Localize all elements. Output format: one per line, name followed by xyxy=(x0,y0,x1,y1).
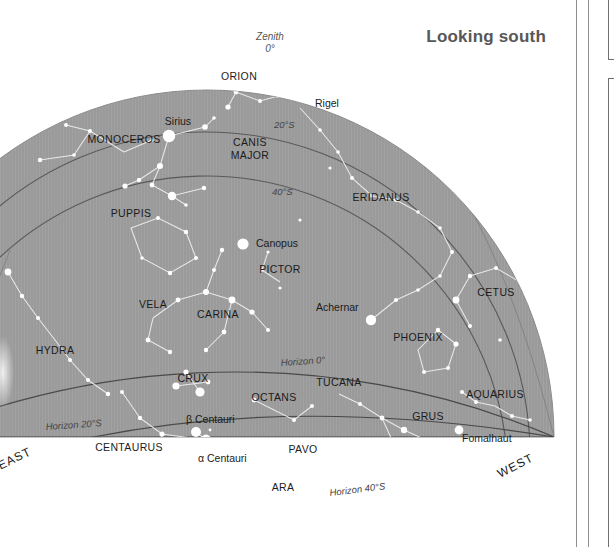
adjacent-panel-top-bottom xyxy=(608,59,614,60)
constellation-label-centaurus: CENTAURUS xyxy=(95,441,163,453)
constellation-label-vela: VELA xyxy=(139,298,167,310)
star-beta-centauri xyxy=(191,427,201,437)
star-chart-page: Looking south xyxy=(0,0,614,547)
constellation-label-puppis: PUPPIS xyxy=(111,207,152,219)
sky-chart: Zenith 0° 20°S 40°S Horizon 0° Horizon 2… xyxy=(0,0,590,547)
star-label-achernar: Achernar xyxy=(316,301,359,313)
constellation-label-tucana: TUCANA xyxy=(316,376,361,388)
star-sirius xyxy=(163,130,175,142)
star-canopus xyxy=(237,238,248,249)
constellation-label-cetus: CETUS xyxy=(477,286,514,298)
declination-20S-label: 20°S xyxy=(273,119,295,130)
constellation-label-crux: CRUX xyxy=(177,372,208,384)
constellation-label-aquarius: AQUARIUS xyxy=(466,388,524,400)
adjacent-panel-top-edge xyxy=(608,0,609,60)
star-label-alpha-centauri: α Centauri xyxy=(198,452,247,464)
constellation-label-pavo: PAVO xyxy=(288,443,317,455)
constellation-label-carina: CARINA xyxy=(197,308,239,320)
star-label-canopus: Canopus xyxy=(256,237,298,249)
star-label-fomalhaut: Fomalhaut xyxy=(462,432,512,444)
constellation-label-canis-major-line2: MAJOR xyxy=(231,149,270,161)
constellation-label-hydra: HYDRA xyxy=(36,344,75,356)
constellation-label-monoceros: MONOCEROS xyxy=(87,133,160,145)
star-label-rigel: Rigel xyxy=(315,97,339,109)
sky-chart-svg: Zenith 0° 20°S 40°S Horizon 0° Horizon 2… xyxy=(0,0,590,547)
constellation-label-canis-major-line1: CANIS xyxy=(233,136,267,148)
zenith-value: 0° xyxy=(265,43,275,54)
constellation-label-grus: GRUS xyxy=(412,410,444,422)
star-label-beta-centauri: β Centauri xyxy=(186,413,235,425)
declination-40S-label: 40°S xyxy=(272,186,293,197)
zenith-label: Zenith xyxy=(255,31,284,42)
direction-west-label: WEST xyxy=(495,451,536,481)
star-achernar xyxy=(366,315,376,325)
constellation-label-orion: ORION xyxy=(221,70,257,82)
constellation-label-eridanus: ERIDANUS xyxy=(352,191,409,203)
star-label-sirius: Sirius xyxy=(165,115,191,127)
star-alpha-centauri xyxy=(201,435,212,446)
horizon-40S-label: Horizon 40°S xyxy=(329,480,387,498)
constellation-label-octans: OCTANS xyxy=(251,391,296,403)
constellation-label-ara: ARA xyxy=(272,481,295,493)
star-rigel xyxy=(301,85,310,94)
adjacent-panel-lower-edge xyxy=(608,78,609,547)
constellation-label-pictor: PICTOR xyxy=(259,263,301,275)
constellation-label-phoenix: PHOENIX xyxy=(393,331,443,343)
